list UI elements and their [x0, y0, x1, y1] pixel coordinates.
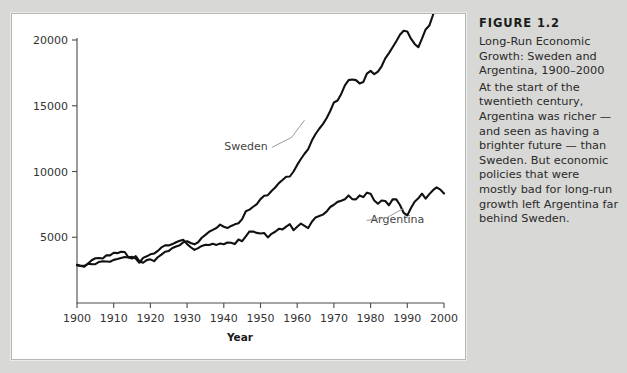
series-annotation-sweden: Sweden: [224, 140, 267, 153]
y-tick-label: 5000: [40, 231, 68, 244]
x-tick-label: 1930: [173, 312, 201, 325]
x-tick-label: 1980: [357, 312, 385, 325]
figure-number: FIGURE 1.2: [479, 16, 619, 30]
x-axis-title: Year: [226, 331, 254, 343]
x-tick-label: 1920: [136, 312, 164, 325]
x-tick-label: 1990: [393, 312, 421, 325]
x-tick-label: 1940: [210, 312, 238, 325]
figure-container: 5000100001500020000190019101920193019401…: [0, 0, 627, 373]
figure-title: Long-Run Economic Growth: Sweden and Arg…: [479, 35, 619, 79]
x-tick-label: 1950: [247, 312, 275, 325]
series-annotations: SwedenArgentina: [224, 120, 424, 226]
tick-labels: 5000100001500020000190019101920193019401…: [33, 34, 458, 325]
series-annotation-argentina: Argentina: [371, 213, 425, 226]
x-tick-label: 2000: [430, 312, 458, 325]
x-tick-label: 1960: [283, 312, 311, 325]
y-tick-label: 15000: [33, 100, 68, 113]
y-tick-label: 20000: [33, 34, 68, 47]
axes: [72, 38, 444, 308]
figure-caption: FIGURE 1.2 Long-Run Economic Growth: Swe…: [479, 16, 619, 227]
chart-panel: 5000100001500020000190019101920193019401…: [11, 13, 466, 360]
x-tick-label: 1970: [320, 312, 348, 325]
x-tick-label: 1910: [100, 312, 128, 325]
line-chart: 5000100001500020000190019101920193019401…: [12, 14, 465, 359]
figure-description: At the start of the twentieth century, A…: [479, 81, 619, 227]
y-tick-label: 10000: [33, 166, 68, 179]
x-tick-label: 1900: [63, 312, 91, 325]
